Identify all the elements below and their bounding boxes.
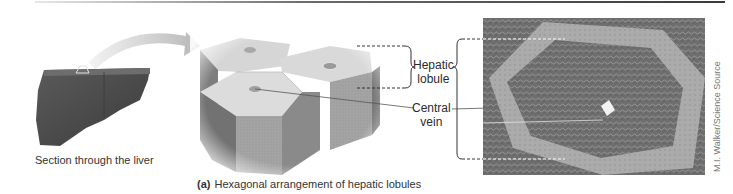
liver-micrograph	[483, 18, 705, 175]
figure-caption: (a)Hexagonal arrangement of hepatic lobu…	[197, 178, 421, 190]
panel-label: (a)	[197, 178, 210, 190]
liver-illustration	[36, 66, 150, 146]
photo-credit: M.I. Walker/Science Source	[712, 61, 722, 172]
caption-text: Hexagonal arrangement of hepatic lobules	[214, 178, 421, 190]
liver-caption: Section through the liver	[35, 154, 154, 166]
hepatic-lobule-label: Hepatic lobule	[413, 58, 454, 86]
curved-arrow-icon	[92, 32, 200, 66]
central-label-line1: Central	[412, 101, 451, 115]
vein-label-line2: vein	[412, 115, 451, 129]
hexagonal-lobules-illustration	[190, 30, 390, 185]
lobule-label-line2: lobule	[413, 72, 454, 86]
hepatic-label-line1: Hepatic	[413, 58, 454, 72]
central-vein-label: Central vein	[412, 101, 451, 129]
